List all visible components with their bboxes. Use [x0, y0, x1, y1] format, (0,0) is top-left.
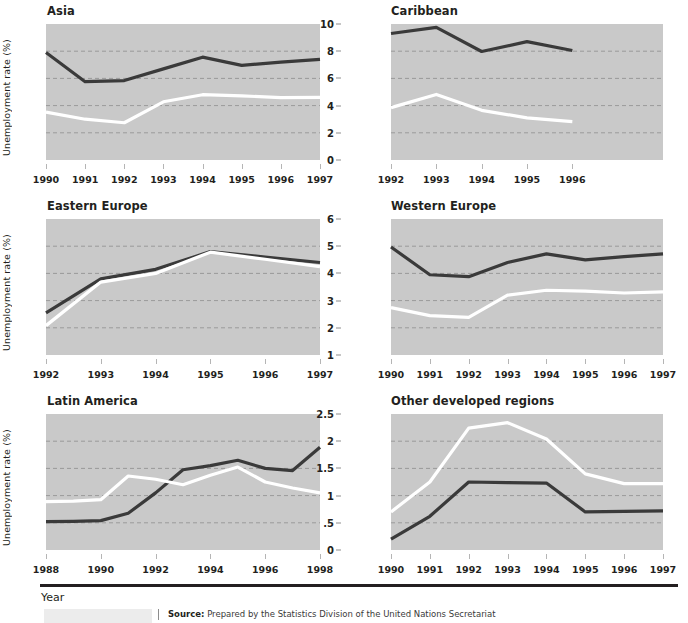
y-axis-label: Unemployment rate (%): [0, 223, 13, 363]
chart-title: Western Europe: [391, 199, 496, 213]
x-tick-mark: [156, 359, 157, 364]
x-tick-label: 1992: [455, 369, 481, 380]
y-tick-label: .5: [323, 517, 334, 528]
x-tick-label: 1997: [650, 564, 676, 575]
x-tick-label: 1995: [197, 369, 223, 380]
source-label: Source:: [168, 609, 204, 619]
x-tick-mark: [546, 554, 547, 559]
x-tick-mark: [85, 164, 86, 169]
x-tick-label: 1997: [650, 369, 676, 380]
x-tick-mark: [663, 554, 664, 559]
series-line-dark: [46, 53, 320, 82]
y-tick-label: 2: [327, 322, 334, 333]
x-tick-label: 1993: [150, 174, 176, 185]
plot-area: 19901991199219931994199519961997: [391, 219, 663, 355]
series-canvas: [391, 219, 663, 355]
x-tick-mark: [624, 554, 625, 559]
y-tick-label: 5: [327, 241, 334, 252]
chart-title: Latin America: [47, 394, 138, 408]
y-tick-label: 4: [327, 268, 334, 279]
x-tick-mark: [469, 554, 470, 559]
x-tick-mark: [46, 554, 47, 559]
legend-divider: [158, 609, 159, 620]
y-tick-mark: [336, 550, 341, 551]
x-tick-mark: [101, 554, 102, 559]
y-tick-mark: [336, 495, 341, 496]
x-axis-ticks: 19901991199219931994199519961997: [391, 359, 663, 383]
source-text: Prepared by the Statistics Division of t…: [207, 609, 495, 619]
y-tick-mark: [336, 219, 341, 220]
y-tick-mark: [336, 522, 341, 523]
x-tick-label: 1990: [88, 564, 114, 575]
y-tick-mark: [336, 468, 341, 469]
x-tick-label: 1994: [468, 174, 494, 185]
x-tick-label: 1995: [514, 174, 540, 185]
chart-panel-asia: AsiaUnemployment rate (%)199019911992199…: [0, 0, 344, 195]
plot-area: 19901991199219931994199519961997: [46, 24, 320, 160]
x-axis-ticks: 198819901992199419961998: [46, 554, 320, 578]
x-tick-label: 1990: [378, 564, 404, 575]
y-tick-mark: [336, 300, 341, 301]
y-tick-mark: [336, 273, 341, 274]
y-tick-label: 4: [327, 100, 334, 111]
y-tick-mark: [336, 160, 341, 161]
y-tick-mark: [336, 355, 341, 356]
y-axis-ticks: 0.511.522.5: [301, 414, 341, 550]
x-tick-mark: [320, 164, 321, 169]
x-tick-label: 1995: [228, 174, 254, 185]
chart-panel-eastern-europe: Eastern EuropeUnemployment rate (%)19921…: [0, 195, 344, 390]
y-tick-mark: [336, 24, 341, 25]
x-tick-mark: [391, 554, 392, 559]
x-tick-mark: [210, 359, 211, 364]
x-tick-label: 1992: [455, 564, 481, 575]
y-tick-label: 0: [327, 155, 334, 166]
x-tick-label: 1993: [494, 564, 520, 575]
y-tick-label: 2: [327, 127, 334, 138]
series-canvas: [391, 414, 663, 550]
x-axis-title: Year: [41, 591, 64, 604]
x-tick-label: 1992: [111, 174, 137, 185]
y-axis-ticks: 123456: [301, 219, 341, 355]
x-tick-mark: [482, 164, 483, 169]
y-axis-ticks: 0246810: [301, 24, 341, 160]
x-tick-mark: [156, 554, 157, 559]
x-tick-label: 1992: [378, 174, 404, 185]
x-tick-label: 1998: [307, 564, 333, 575]
source-note: Source: Prepared by the Statistics Divis…: [168, 609, 496, 619]
series-line-dark: [391, 27, 572, 51]
x-tick-label: 1996: [611, 369, 637, 380]
series-canvas: [46, 414, 320, 550]
x-tick-label: 1992: [33, 369, 59, 380]
x-tick-label: 1995: [572, 564, 598, 575]
plot-area: 199219931994199519961997: [46, 219, 320, 355]
footer-divider: [40, 584, 678, 587]
y-tick-label: 2: [327, 436, 334, 447]
y-tick-label: 0: [327, 545, 334, 556]
x-tick-label: 1996: [252, 369, 278, 380]
x-tick-label: 1996: [559, 174, 585, 185]
y-tick-label: 6: [327, 214, 334, 225]
x-tick-mark: [436, 164, 437, 169]
plot-area: 198819901992199419961998: [46, 414, 320, 550]
x-tick-label: 1993: [494, 369, 520, 380]
x-tick-mark: [624, 359, 625, 364]
x-axis-ticks: 19921993199419951996: [391, 164, 663, 188]
x-tick-label: 1991: [72, 174, 98, 185]
chart-title: Caribbean: [391, 4, 458, 18]
x-tick-label: 1997: [307, 174, 333, 185]
x-tick-label: 1996: [252, 564, 278, 575]
x-tick-mark: [320, 359, 321, 364]
x-tick-mark: [391, 164, 392, 169]
series-line-light: [391, 290, 663, 317]
x-tick-label: 1991: [417, 369, 443, 380]
chart-title: Asia: [47, 4, 75, 18]
x-tick-label: 1994: [189, 174, 215, 185]
y-tick-mark: [336, 78, 341, 79]
x-tick-mark: [585, 359, 586, 364]
y-tick-mark: [336, 105, 341, 106]
x-tick-mark: [508, 359, 509, 364]
series-line-light: [46, 95, 320, 123]
y-tick-label: 1: [327, 490, 334, 501]
x-tick-label: 1994: [197, 564, 223, 575]
y-tick-mark: [336, 441, 341, 442]
